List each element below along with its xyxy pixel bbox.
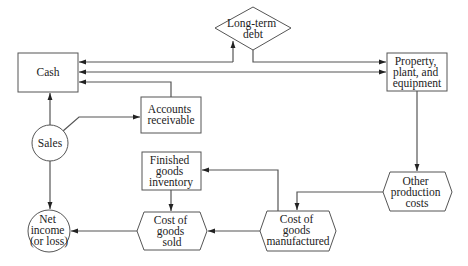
svg-text:Sales: Sales [38, 137, 63, 149]
cash-label: Cash [37, 66, 60, 78]
cash-flow-diagram: Cash Long-term debt Property, plant, and… [0, 0, 468, 266]
node-ppe: Property, plant, and equipment [387, 53, 447, 91]
ni-label-line-3: (or loss) [30, 235, 68, 248]
ppe-label-line-3: equipment [393, 77, 442, 90]
node-finished-goods-inventory: Finished goods inventory [142, 152, 201, 190]
edge-other-cogm [297, 192, 383, 210]
edges [50, 41, 417, 231]
node-other-production-costs: Other production costs [383, 172, 452, 211]
node-cost-of-goods-sold: Cost of goods sold [137, 212, 207, 250]
svg-text:Cash: Cash [37, 66, 60, 78]
node-sales: Sales [32, 125, 68, 161]
sales-label: Sales [38, 137, 63, 149]
edge-debt-ppe [253, 50, 386, 62]
opc-label-line-3: costs [406, 197, 430, 209]
cogm-label-line-3: manufactured [266, 235, 329, 247]
node-accounts-receivable: Accounts receivable [141, 97, 201, 133]
debt-label-line-2: debt [243, 28, 264, 40]
node-long-term-debt: Long-term debt [215, 7, 291, 50]
node-cost-of-goods-manufactured: Cost of goods manufactured [260, 211, 336, 251]
node-cash: Cash [18, 53, 78, 92]
node-net-income: Net income (or loss) [28, 210, 70, 252]
fgi-label-line-3: inventory [149, 176, 193, 189]
edge-ar-cash [79, 82, 171, 97]
ar-label-line-2: receivable [147, 114, 194, 126]
edge-sales-ar [63, 117, 140, 131]
svg-text:Property, plant, and: Property, plant, and equipment [393, 55, 442, 90]
edge-cogm-fgi [202, 170, 278, 211]
svg-text:Accounts receivable: Accounts receivable [147, 103, 194, 126]
cogs-label-line-3: sold [162, 236, 181, 248]
